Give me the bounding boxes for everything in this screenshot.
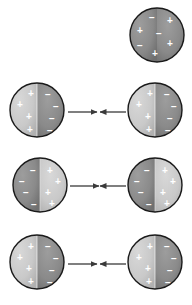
sphere-row-attract-1-left[interactable]: +−+−+−+− xyxy=(9,82,65,138)
charge-plus: + xyxy=(162,165,168,176)
charge-minus: − xyxy=(167,265,173,276)
charge-minus: − xyxy=(49,265,55,276)
charge-plus: + xyxy=(26,263,32,274)
charge-minus: − xyxy=(30,165,36,176)
charge-minus: − xyxy=(165,277,171,288)
charge-minus: − xyxy=(23,187,29,198)
charge-plus: + xyxy=(49,198,55,209)
charge-minus: − xyxy=(137,40,143,51)
charge-plus: + xyxy=(28,241,34,252)
charge-plus: + xyxy=(28,88,34,99)
charge-plus: + xyxy=(136,99,142,110)
charge-minus: − xyxy=(156,28,162,39)
charge-plus: + xyxy=(146,124,152,135)
charge-plus: + xyxy=(167,15,173,26)
diagram-canvas: −++−−+++−+−+−+−+−+−+−+−−+−+−+−+−+−+−+−++… xyxy=(0,0,192,305)
charge-minus: − xyxy=(49,113,55,124)
sphere-row-attract-1-right[interactable]: +−+−+−+− xyxy=(127,82,183,138)
polarization-diagram: −++−−+++−+−+−+−+−+−+−+−−+−+−+−+−+−+−+−++… xyxy=(0,0,192,305)
charge-plus: + xyxy=(147,88,153,99)
charge-plus: + xyxy=(170,176,176,187)
charge-minus: − xyxy=(164,89,170,100)
charge-plus: + xyxy=(167,38,173,49)
charge-minus: − xyxy=(164,241,170,252)
charge-plus: + xyxy=(27,124,33,135)
charge-minus: − xyxy=(146,199,152,210)
charge-plus: + xyxy=(17,252,23,263)
charge-minus: − xyxy=(47,277,53,288)
sphere-row-attract-2-left[interactable]: −+−+−+−+ xyxy=(12,157,68,213)
charge-plus: + xyxy=(147,241,153,252)
charge-minus: − xyxy=(134,176,140,187)
charge-plus: + xyxy=(164,198,170,209)
charge-minus: − xyxy=(45,89,51,100)
charge-minus: − xyxy=(19,176,25,187)
charge-minus: − xyxy=(167,113,173,124)
charge-minus: − xyxy=(144,165,150,176)
row-attract-1: +−+−+−+−+−+−+−+− xyxy=(9,82,183,138)
charge-plus: + xyxy=(160,187,166,198)
sphere-row-attract-3-right[interactable]: +−+−+−+− xyxy=(127,234,183,290)
charge-plus: + xyxy=(17,99,23,110)
charge-minus: − xyxy=(149,12,155,23)
charge-plus: + xyxy=(136,252,142,263)
charge-minus: − xyxy=(53,253,59,264)
row-neutral-single: −++−−++ xyxy=(129,7,185,63)
charge-minus: − xyxy=(53,101,59,112)
charge-plus: + xyxy=(145,111,151,122)
charge-minus: − xyxy=(47,125,53,136)
charge-plus: + xyxy=(152,48,158,59)
charge-plus: + xyxy=(47,165,53,176)
charge-plus: + xyxy=(55,176,61,187)
charge-minus: − xyxy=(171,253,177,264)
charge-plus: + xyxy=(28,276,34,287)
row-attract-3: +−+−+−+−+−+−+−+− xyxy=(9,234,183,290)
charge-minus: − xyxy=(45,241,51,252)
charge-plus: + xyxy=(145,263,151,274)
charge-plus: + xyxy=(26,111,32,122)
charge-plus: + xyxy=(146,276,152,287)
sphere-row-neutral-single-right[interactable]: −++−−++ xyxy=(129,7,185,63)
charge-minus: − xyxy=(165,125,171,136)
sphere-row-attract-2-right[interactable]: −+−+−+−+ xyxy=(127,157,183,213)
charge-minus: − xyxy=(138,187,144,198)
sphere-row-attract-3-left[interactable]: +−+−+−+− xyxy=(9,234,65,290)
charge-plus: + xyxy=(45,187,51,198)
charge-minus: − xyxy=(171,101,177,112)
row-attract-2: −+−+−+−+−+−+−+−+ xyxy=(12,157,183,213)
charge-plus: + xyxy=(137,25,143,36)
charge-minus: − xyxy=(31,199,37,210)
